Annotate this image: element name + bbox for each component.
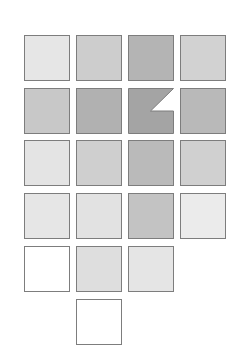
square-tile (180, 88, 226, 134)
square-tile (128, 246, 174, 292)
square-tile (24, 35, 70, 81)
square-tile (128, 140, 174, 186)
square-tile (128, 35, 174, 81)
square-tile (180, 140, 226, 186)
square-tile (76, 35, 122, 81)
square-tile (76, 299, 122, 345)
square-tile (180, 35, 226, 81)
square-tile (24, 193, 70, 239)
square-tile (76, 140, 122, 186)
square-tile (24, 88, 70, 134)
square-tile (180, 193, 226, 239)
notched-square (128, 88, 174, 134)
square-tile (76, 246, 122, 292)
square-tile (76, 193, 122, 239)
square-tile (24, 246, 70, 292)
square-tile (76, 88, 122, 134)
square-tile (24, 140, 70, 186)
square-tile (128, 193, 174, 239)
